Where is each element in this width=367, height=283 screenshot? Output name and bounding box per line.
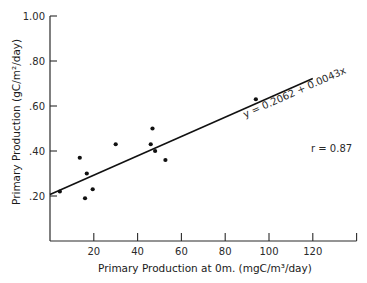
correlation-coefficient: r = 0.87 bbox=[311, 143, 352, 154]
data-point bbox=[83, 196, 87, 200]
data-point bbox=[85, 171, 89, 175]
x-axis-title: Primary Production at 0m. (mgC/m³/day) bbox=[98, 262, 312, 274]
y-tick-label: 1.00 bbox=[23, 11, 45, 22]
y-tick-label: .20 bbox=[29, 191, 45, 202]
y-axis-title: Primary Production (gC/m²/day) bbox=[10, 39, 22, 205]
x-tick-label: 100 bbox=[259, 246, 278, 257]
y-tick-label: .60 bbox=[29, 101, 45, 112]
data-point bbox=[78, 156, 82, 160]
x-tick-label: 60 bbox=[175, 246, 188, 257]
data-point bbox=[91, 187, 95, 191]
data-point bbox=[163, 158, 167, 162]
x-tick-label: 80 bbox=[219, 246, 232, 257]
data-points bbox=[58, 97, 258, 200]
data-point bbox=[254, 97, 258, 101]
data-point bbox=[149, 142, 153, 146]
data-point bbox=[153, 149, 157, 153]
x-tick-label: 120 bbox=[303, 246, 322, 257]
regression-equation: y = 0.2062 + 0.0043x bbox=[241, 64, 347, 119]
data-point bbox=[150, 126, 154, 130]
data-point bbox=[114, 142, 118, 146]
x-tick-label: 20 bbox=[87, 246, 100, 257]
y-tick-label: .80 bbox=[29, 56, 45, 67]
y-tick-label: .40 bbox=[29, 146, 45, 157]
scatter-chart: .20.40.60.801.0020406080100120 y = 0.206… bbox=[0, 0, 367, 283]
data-point bbox=[58, 189, 62, 193]
x-tick-label: 40 bbox=[131, 246, 144, 257]
